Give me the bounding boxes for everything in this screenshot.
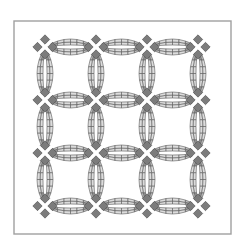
ring-segment bbox=[139, 173, 142, 180]
ring-segment bbox=[152, 120, 155, 127]
ring-segment bbox=[101, 120, 104, 127]
ring-segment bbox=[64, 145, 70, 148]
ring-segment bbox=[64, 105, 70, 108]
ring-segment bbox=[173, 198, 179, 201]
ring-segment bbox=[173, 145, 179, 148]
ring-segment bbox=[88, 74, 91, 81]
ring-segment bbox=[50, 74, 53, 81]
ring-segment bbox=[64, 92, 70, 95]
ring-segment bbox=[50, 180, 53, 187]
ring-segment bbox=[190, 74, 193, 81]
ring-segment bbox=[50, 67, 53, 74]
ring-segment bbox=[122, 145, 128, 148]
ring-segment bbox=[88, 180, 91, 187]
ring-segment bbox=[122, 158, 128, 161]
ring-segment bbox=[203, 67, 206, 74]
ring-segment bbox=[166, 105, 172, 108]
ring-segment bbox=[101, 127, 104, 134]
ring-segment bbox=[190, 67, 193, 74]
ring-segment bbox=[37, 127, 40, 134]
ring-segment bbox=[203, 180, 206, 187]
ring-segment bbox=[50, 120, 53, 127]
ring-segment bbox=[115, 158, 121, 161]
ring-segment bbox=[101, 180, 104, 187]
ring-segment bbox=[64, 211, 70, 214]
ring-segment bbox=[64, 158, 70, 161]
ring-segment bbox=[50, 173, 53, 180]
ring-segment bbox=[190, 173, 193, 180]
quilt-canvas bbox=[0, 0, 245, 248]
ring-segment bbox=[37, 173, 40, 180]
ring-segment bbox=[166, 145, 172, 148]
ring-segment bbox=[173, 105, 179, 108]
ring-segment bbox=[122, 211, 128, 214]
ring-segment bbox=[190, 127, 193, 134]
ring-segment bbox=[166, 198, 172, 201]
ring-segment bbox=[37, 67, 40, 74]
ring-segment bbox=[50, 127, 53, 134]
ring-segment bbox=[115, 39, 121, 42]
ring-segment bbox=[152, 173, 155, 180]
ring-segment bbox=[173, 158, 179, 161]
ring-segment bbox=[122, 92, 128, 95]
ring-segment bbox=[37, 120, 40, 127]
ring-segment bbox=[88, 127, 91, 134]
ring-segment bbox=[115, 211, 121, 214]
ring-segment bbox=[71, 211, 77, 214]
ring-segment bbox=[71, 105, 77, 108]
ring-segment bbox=[139, 74, 142, 81]
ring-segment bbox=[166, 158, 172, 161]
ring-segment bbox=[139, 67, 142, 74]
ring-segment bbox=[115, 52, 121, 55]
ring-segment bbox=[173, 211, 179, 214]
ring-segment bbox=[37, 74, 40, 81]
ring-segment bbox=[122, 52, 128, 55]
ring-segment bbox=[152, 127, 155, 134]
ring-segment bbox=[88, 120, 91, 127]
ring-segment bbox=[203, 74, 206, 81]
ring-segment bbox=[71, 92, 77, 95]
ring-segment bbox=[166, 52, 172, 55]
ring-segment bbox=[190, 180, 193, 187]
ring-segment bbox=[71, 158, 77, 161]
ring-segment bbox=[122, 198, 128, 201]
ring-segment bbox=[122, 105, 128, 108]
ring-segment bbox=[139, 127, 142, 134]
ring-segment bbox=[101, 74, 104, 81]
ring-segment bbox=[166, 39, 172, 42]
ring-segment bbox=[115, 198, 121, 201]
ring-segment bbox=[166, 211, 172, 214]
ring-segment bbox=[64, 198, 70, 201]
ring-segment bbox=[101, 67, 104, 74]
ring-segment bbox=[152, 67, 155, 74]
ring-segment bbox=[71, 52, 77, 55]
ring-segment bbox=[203, 127, 206, 134]
ring-segment bbox=[166, 92, 172, 95]
ring-segment bbox=[71, 198, 77, 201]
ring-segment bbox=[71, 39, 77, 42]
ring-segment bbox=[173, 52, 179, 55]
ring-segment bbox=[203, 173, 206, 180]
ring-segment bbox=[139, 120, 142, 127]
ring-segment bbox=[203, 120, 206, 127]
ring-segment bbox=[152, 74, 155, 81]
ring-segment bbox=[88, 173, 91, 180]
ring-segment bbox=[101, 173, 104, 180]
ring-segment bbox=[173, 92, 179, 95]
ring-segment bbox=[139, 180, 142, 187]
ring-segment bbox=[115, 105, 121, 108]
ring-segment bbox=[152, 180, 155, 187]
ring-segment bbox=[173, 39, 179, 42]
ring-segment bbox=[64, 52, 70, 55]
ring-segment bbox=[64, 39, 70, 42]
ring-segment bbox=[122, 39, 128, 42]
ring-segment bbox=[88, 67, 91, 74]
ring-segment bbox=[190, 120, 193, 127]
ring-segment bbox=[115, 92, 121, 95]
ring-segment bbox=[71, 145, 77, 148]
ring-segment bbox=[115, 145, 121, 148]
ring-segment bbox=[37, 180, 40, 187]
